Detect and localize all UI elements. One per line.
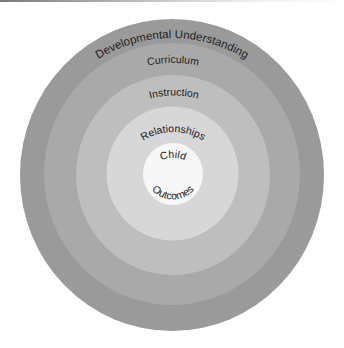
concentric-diagram: Developmental Understanding Curriculum I… <box>0 0 344 348</box>
